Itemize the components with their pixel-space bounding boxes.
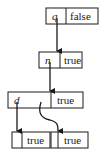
node-top-value: false: [70, 10, 91, 22]
node-middle: n true: [39, 52, 82, 68]
node-third: d true: [8, 92, 83, 108]
node-top: q false: [46, 8, 98, 24]
node-middle-value: true: [64, 54, 81, 66]
node-third-value: true: [57, 94, 74, 106]
node-bottom-left: true: [12, 132, 50, 148]
node-bottom-left-value: true: [27, 134, 44, 146]
node-bottom-right: true: [51, 132, 88, 148]
node-bottom-right-value: true: [64, 134, 81, 146]
edge-third-to-bottom-right: [40, 102, 58, 131]
pointer-diagram: q false n true d true true true: [0, 0, 101, 158]
